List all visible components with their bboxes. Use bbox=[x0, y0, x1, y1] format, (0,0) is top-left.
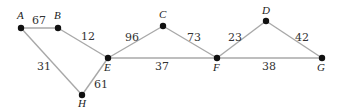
node-label: G bbox=[317, 61, 325, 73]
edge-a-h bbox=[21, 28, 82, 95]
edge-weight-label: 31 bbox=[37, 60, 51, 73]
node-label: A bbox=[16, 9, 24, 21]
edge-weight-label: 61 bbox=[94, 78, 108, 91]
node-c bbox=[160, 23, 166, 29]
node-label: F bbox=[212, 61, 220, 73]
edge-weight-label: 73 bbox=[187, 31, 201, 44]
edge-weight-label: 42 bbox=[295, 31, 309, 44]
node-label: B bbox=[54, 9, 61, 21]
labels-layer: 67123161963773234238ABCDEFGH bbox=[16, 4, 325, 108]
node-label: D bbox=[261, 4, 270, 16]
node-d bbox=[263, 18, 269, 24]
edge-d-g bbox=[266, 21, 322, 58]
edge-weight-label: 23 bbox=[228, 31, 242, 44]
edge-weight-label: 38 bbox=[262, 60, 276, 73]
edges-layer bbox=[21, 21, 322, 95]
edge-weight-label: 67 bbox=[32, 14, 46, 27]
node-b bbox=[55, 25, 61, 31]
edge-weight-label: 12 bbox=[81, 30, 95, 43]
weighted-graph: 67123161963773234238ABCDEFGH bbox=[0, 0, 338, 108]
node-a bbox=[18, 25, 24, 31]
node-label: C bbox=[159, 8, 167, 20]
node-label: H bbox=[77, 97, 87, 108]
edge-weight-label: 96 bbox=[125, 31, 139, 44]
node-label: E bbox=[103, 61, 111, 73]
edge-weight-label: 37 bbox=[155, 60, 169, 73]
